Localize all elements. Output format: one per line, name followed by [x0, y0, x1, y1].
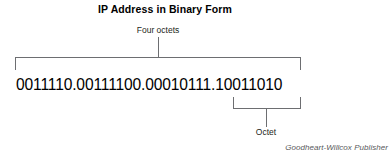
- leader-line-four-octets: [158, 37, 159, 57]
- bracket-bottom-bar: [233, 108, 301, 109]
- binary-ip-address: 0011110.00111100.00010111.10011010: [16, 75, 282, 94]
- ip-address-binary-figure: IP Address in Binary Form Four octets 00…: [0, 0, 391, 163]
- annotation-label-octet: Octet: [216, 127, 316, 137]
- publisher-credit: Goodheart-Willcox Publisher: [285, 143, 388, 152]
- annotation-label-four-octets: Four octets: [108, 25, 208, 35]
- bracket-top-bar: [15, 57, 301, 58]
- figure-title: IP Address in Binary Form: [0, 3, 330, 15]
- bracket-bottom-tick-left: [233, 97, 234, 108]
- bracket-top-tick-left: [15, 57, 16, 70]
- bracket-bottom-tick-right: [300, 97, 301, 108]
- leader-line-octet: [266, 108, 267, 127]
- bracket-top-tick-right: [300, 57, 301, 70]
